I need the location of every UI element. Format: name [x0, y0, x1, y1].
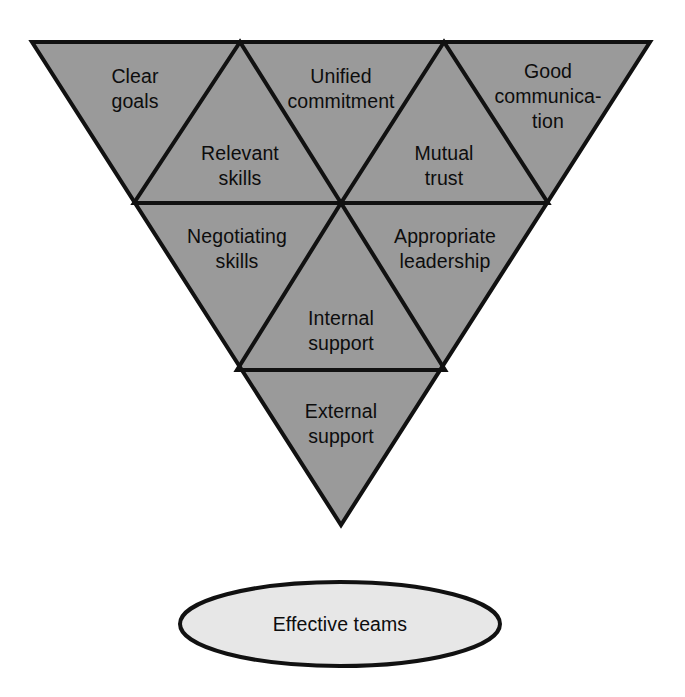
external-support-line-1: External — [305, 400, 377, 422]
mutual-trust-line-1: Mutual — [414, 142, 473, 164]
negotiating-skills-line-1: Negotiating — [187, 225, 287, 247]
mutual-trust-line-2: trust — [425, 167, 464, 189]
unified-commitment-line-2: commitment — [287, 90, 395, 112]
appropriate-leadership-line-2: leadership — [400, 250, 491, 272]
external-support-line-2: support — [308, 425, 374, 447]
good-communication-line-3: tion — [532, 110, 564, 132]
good-communication-line-1: Good — [524, 60, 572, 82]
unified-commitment-line-1: Unified — [310, 65, 371, 87]
relevant-skills-line-2: skills — [219, 167, 262, 189]
clear-goals-line-2: goals — [111, 90, 158, 112]
appropriate-leadership-line-1: Appropriate — [394, 225, 496, 247]
effective-teams-diagram: Clear goals Relevant skills Unified comm… — [0, 0, 685, 697]
relevant-skills-line-1: Relevant — [201, 142, 279, 164]
internal-support-line-1: Internal — [308, 307, 374, 329]
internal-support-line-2: support — [308, 332, 374, 354]
outcome-group: Effective teams — [180, 582, 500, 666]
diagram-canvas: Clear goals Relevant skills Unified comm… — [0, 0, 685, 697]
effective-teams-label: Effective teams — [273, 613, 408, 635]
good-communication-line-2: communica- — [494, 85, 601, 107]
clear-goals-line-1: Clear — [111, 65, 159, 87]
negotiating-skills-line-2: skills — [216, 250, 259, 272]
